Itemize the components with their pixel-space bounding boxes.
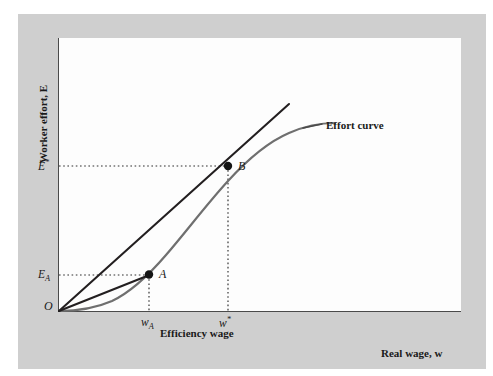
x-tick-label-w-star: w*	[219, 315, 231, 329]
y-tick-label-e-a: EA	[38, 268, 50, 283]
point-a-label: A	[159, 267, 166, 282]
origin-label: O	[44, 299, 53, 314]
figure-page: Worker effort, E Efficiency wage Real wa…	[0, 0, 493, 376]
x-axis-title-outer: Real wage, w	[381, 347, 442, 359]
plot-canvas	[58, 38, 461, 312]
y-tick-label-e-star: E*	[38, 158, 49, 172]
point-b-label: B	[238, 159, 245, 174]
x-tick-label-w-a: wA	[141, 316, 154, 331]
effort-curve-label: Effort curve	[326, 119, 384, 131]
